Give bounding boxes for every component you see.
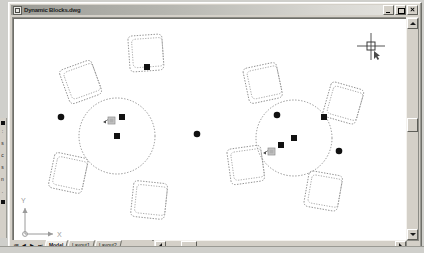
point-tool[interactable]: :: [0, 126, 5, 137]
scroll-up-button[interactable]: [407, 18, 418, 29]
maximize-button[interactable]: [395, 5, 406, 15]
draw-toolbar[interactable]: : s c s n .: [0, 118, 7, 238]
vertical-scroll-thumb[interactable]: [407, 118, 418, 132]
dwg-document-icon: [13, 6, 22, 15]
status-bar: [0, 246, 424, 253]
crosshair-cursor: [357, 33, 385, 60]
vertical-scrollbar[interactable]: [406, 17, 419, 241]
svg-text:Y: Y: [21, 197, 26, 204]
drawing-child-window: Dynamic Blocks.dwg: [8, 2, 422, 253]
model-space-viewport[interactable]: Y X: [13, 18, 406, 240]
scroll-down-button[interactable]: [407, 229, 418, 240]
rectangle-tool[interactable]: [1, 121, 5, 125]
close-button[interactable]: [407, 5, 418, 15]
autocad-application-window: : s c s n . Dynamic Blocks.dwg: [0, 0, 424, 253]
chevron-down-icon: [410, 233, 416, 236]
region-tool[interactable]: s: [0, 162, 5, 173]
chevron-up-icon: [410, 22, 416, 25]
block-tool[interactable]: .: [0, 186, 5, 197]
window-title-bar[interactable]: Dynamic Blocks.dwg: [11, 5, 419, 15]
svg-text:X: X: [57, 231, 62, 238]
ucs-icon: Y X: [21, 197, 62, 238]
hatch-tool[interactable]: s: [0, 138, 5, 149]
drawing-area[interactable]: Y X: [12, 17, 407, 241]
round-table-right: [227, 62, 365, 212]
minimize-button[interactable]: [383, 5, 394, 15]
round-table-left: [48, 34, 200, 220]
window-title: Dynamic Blocks.dwg: [24, 7, 80, 13]
gradient-tool[interactable]: c: [0, 150, 5, 161]
insert-tool[interactable]: [1, 200, 5, 204]
table-tool[interactable]: n: [0, 174, 5, 185]
